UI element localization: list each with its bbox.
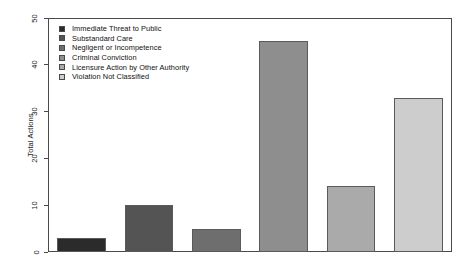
bar: [394, 98, 442, 252]
y-axis-tick-value: 30: [29, 107, 38, 115]
bar: [125, 205, 173, 252]
legend-item-label: Criminal Conviction: [72, 53, 137, 62]
bar: [57, 238, 105, 252]
bar-chart: Total Actions 01020304050 Immediate Thre…: [0, 0, 474, 270]
legend-item: Substandard Care: [59, 34, 189, 44]
y-axis-tick: 0: [34, 247, 38, 257]
y-axis-tick-value: 0: [31, 250, 40, 254]
legend-item: Negligent or Incompetence: [59, 43, 189, 53]
legend-swatch-icon: [59, 45, 65, 51]
legend-item: Immediate Threat to Public: [59, 24, 189, 34]
legend-item-label: Substandard Care: [72, 34, 133, 43]
legend-item-label: Violation Not Classified: [72, 72, 149, 81]
y-axis-tick-mark: [44, 158, 48, 159]
legend-item-label: Immediate Threat to Public: [72, 24, 161, 33]
legend-swatch-icon: [59, 74, 65, 80]
legend-swatch-icon: [59, 55, 65, 61]
y-axis-tick-value: 40: [29, 61, 38, 69]
chart-legend: Immediate Threat to PublicSubstandard Ca…: [59, 24, 189, 82]
legend-item-label: Negligent or Incompetence: [72, 43, 162, 52]
y-axis-tick-labels: 01020304050: [20, 0, 44, 270]
legend-item: Criminal Conviction: [59, 53, 189, 63]
y-axis-tick-value: 20: [29, 154, 38, 162]
y-axis-tick: 20: [30, 153, 38, 163]
y-axis-tick: 10: [30, 200, 38, 210]
y-axis-tick: 40: [30, 60, 38, 70]
legend-swatch-icon: [59, 64, 65, 70]
y-axis-tick-mark: [44, 18, 48, 19]
bar: [259, 41, 307, 252]
legend-swatch-icon: [59, 26, 65, 32]
y-axis-tick-value: 10: [29, 201, 38, 209]
legend-item: Violation Not Classified: [59, 72, 189, 82]
y-axis-tick: 30: [30, 107, 38, 117]
legend-item-label: Licensure Action by Other Authority: [72, 63, 189, 72]
y-axis-tick-value: 50: [29, 14, 38, 22]
y-axis-tick-mark: [44, 64, 48, 65]
bar: [327, 186, 375, 252]
y-axis-tick-mark: [44, 111, 48, 112]
legend-item: Licensure Action by Other Authority: [59, 62, 189, 72]
y-axis-tick-mark: [44, 205, 48, 206]
y-axis-tick-mark: [44, 252, 48, 253]
y-axis-tick: 50: [30, 13, 38, 23]
bar: [192, 229, 240, 252]
legend-swatch-icon: [59, 35, 65, 41]
